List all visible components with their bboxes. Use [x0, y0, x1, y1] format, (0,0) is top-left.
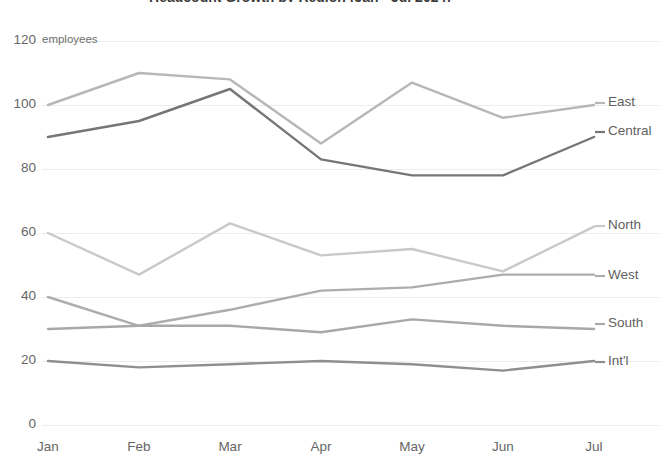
x-tick-mar: Mar: [200, 439, 260, 454]
series-label-central[interactable]: Central: [608, 123, 652, 138]
y-tick-60: 60: [21, 224, 36, 239]
y-tick-20: 20: [21, 352, 36, 367]
y-tick-120: 120: [13, 32, 36, 47]
y-tick-40: 40: [21, 288, 36, 303]
y-tick-100: 100: [13, 96, 36, 111]
y-tick-0: 0: [28, 416, 36, 431]
series-line-west[interactable]: [48, 275, 594, 326]
y-axis-unit-label: employees: [42, 33, 98, 45]
series-label-north[interactable]: North: [608, 217, 641, 232]
plot-area: [0, 0, 671, 463]
series-label-east[interactable]: East: [608, 94, 635, 109]
series-line-north[interactable]: [48, 223, 594, 274]
x-tick-apr: Apr: [291, 439, 351, 454]
line-chart: Headcount Growth by Region (Jan - Jul 20…: [0, 0, 671, 463]
series-line-east[interactable]: [48, 73, 594, 143]
x-tick-feb: Feb: [109, 439, 169, 454]
series-line-central[interactable]: [48, 89, 594, 175]
series-label-west[interactable]: West: [608, 267, 639, 282]
series-line-int-l[interactable]: [48, 361, 594, 371]
y-tick-80: 80: [21, 160, 36, 175]
x-tick-jan: Jan: [18, 439, 78, 454]
series-label-south[interactable]: South: [608, 315, 643, 330]
series-lines: [48, 73, 594, 371]
series-label-int-l[interactable]: Int'l: [608, 353, 629, 368]
x-tick-jul: Jul: [564, 439, 624, 454]
x-tick-jun: Jun: [473, 439, 533, 454]
x-tick-may: May: [382, 439, 442, 454]
series-line-south[interactable]: [48, 319, 594, 332]
